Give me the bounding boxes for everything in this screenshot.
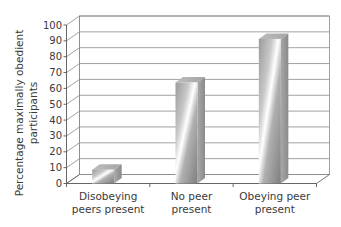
y-tick-label: 30 — [49, 130, 62, 141]
bar-side — [198, 77, 206, 184]
y-tick-label: 80 — [49, 51, 62, 62]
y-axis-title-line: Percentage maximally obedient — [13, 30, 25, 197]
side-gridline — [67, 127, 80, 136]
side-gridline — [67, 111, 80, 120]
side-gridline — [67, 79, 80, 88]
y-tick-label: 0 — [56, 178, 62, 189]
y-tick-labels: 0102030405060708090100 — [43, 20, 62, 190]
y-tick-label: 40 — [49, 115, 62, 126]
y-axis-title: Percentage maximally obedientparticipant… — [13, 30, 39, 197]
y-tick-label: 50 — [49, 99, 62, 110]
bar-front — [259, 39, 281, 184]
y-tick-label: 20 — [49, 146, 62, 157]
bar-side — [281, 33, 289, 183]
y-tick-label: 90 — [49, 35, 62, 46]
y-tick-label: 60 — [49, 83, 62, 94]
side-gridline — [67, 64, 80, 73]
bar-front — [176, 82, 198, 183]
floor-right-edge — [317, 175, 330, 184]
x-category-label: present — [255, 203, 295, 215]
y-axis-title-line: participants — [27, 82, 39, 144]
side-gridline — [67, 143, 80, 152]
side-gridline — [67, 16, 80, 25]
side-gridline — [67, 159, 80, 168]
y-tick-label: 70 — [49, 67, 62, 78]
x-category-labels: Disobeyingpeers presentNo peerpresentObe… — [72, 190, 311, 215]
x-category-label: Disobeying — [79, 190, 137, 202]
y-tick-label: 100 — [43, 20, 62, 31]
x-category-label: present — [172, 203, 212, 215]
y-tick-label: 10 — [49, 162, 62, 173]
side-gridline — [67, 32, 80, 41]
x-category-label: peers present — [72, 203, 145, 215]
side-gridline — [67, 95, 80, 104]
bar-front — [92, 170, 114, 184]
bar-chart: 0102030405060708090100 Disobeyingpeers p… — [0, 0, 341, 227]
floor-left-edge — [67, 175, 80, 184]
side-gridline — [67, 48, 80, 57]
y-axis — [64, 16, 80, 184]
bar — [92, 164, 122, 183]
bar — [259, 33, 289, 183]
x-category-label: Obeying peer — [239, 190, 311, 202]
bar — [176, 77, 206, 184]
x-category-label: No peer — [171, 190, 213, 202]
